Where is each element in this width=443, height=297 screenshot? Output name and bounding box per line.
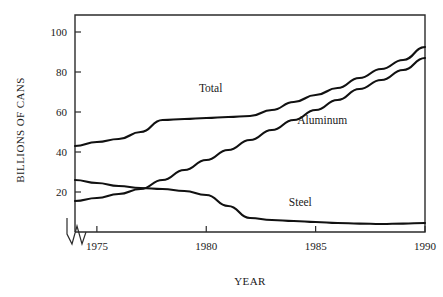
line-chart: 20406080100 1975198019851990 TotalAlumin…	[0, 0, 443, 297]
x-tick-label: 1990	[414, 240, 437, 252]
series-label-aluminum: Aluminum	[297, 114, 347, 126]
series-line-steel	[75, 180, 425, 224]
y-tick-label: 20	[56, 186, 68, 198]
chart-page: 20406080100 1975198019851990 TotalAlumin…	[0, 0, 443, 297]
axis-break-icon	[67, 218, 86, 244]
x-tick-label: 1985	[305, 240, 328, 252]
x-axis-title: YEAR	[234, 275, 266, 287]
y-tick-label: 100	[51, 26, 68, 38]
zigzag-break-icon	[67, 218, 86, 244]
axis-ticks	[75, 32, 425, 232]
y-tick-label: 80	[56, 66, 68, 78]
series-label-steel: Steel	[289, 196, 312, 208]
y-tick-label: 60	[56, 106, 68, 118]
series-line-total	[75, 47, 425, 146]
plot-border	[75, 15, 425, 232]
series-inline-labels: TotalAluminumSteel	[199, 82, 347, 208]
y-tick-label: 40	[56, 146, 68, 158]
plot-frame	[75, 15, 425, 232]
x-axis-tick-labels: 1975198019851990	[86, 240, 437, 252]
y-axis-title: BILLIONS OF CANS	[14, 77, 26, 182]
x-tick-label: 1980	[195, 240, 218, 252]
y-axis-tick-labels: 20406080100	[51, 26, 68, 198]
data-series	[75, 47, 425, 224]
series-label-total: Total	[199, 82, 222, 94]
x-tick-label: 1975	[86, 240, 109, 252]
series-line-aluminum	[75, 58, 425, 201]
